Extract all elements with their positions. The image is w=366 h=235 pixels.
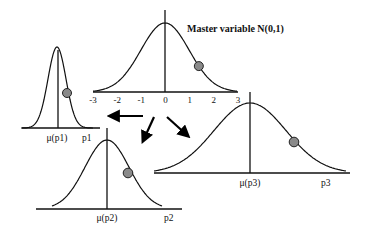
arrow-to-p2 [143, 117, 154, 141]
master-title: Master variable N(0,1) [187, 23, 284, 35]
diagram-canvas: -3-2-10123 Master variable N(0,1) μ(p1) … [0, 0, 366, 235]
master-sample-dot [194, 62, 203, 71]
p2-axis-label: p2 [164, 213, 174, 223]
master-tick-label: 2 [212, 95, 217, 105]
p2-mean-label: μ(p2) [97, 213, 118, 224]
master-plot: -3-2-10123 Master variable N(0,1) [89, 10, 283, 105]
p3-axis-label: p3 [321, 178, 331, 188]
arrow-to-p3 [167, 117, 188, 136]
master-tick-label: 1 [187, 95, 192, 105]
master-tick-label: -3 [89, 95, 97, 105]
p1-axis-label: p1 [82, 133, 92, 143]
master-tick-label: -2 [113, 95, 121, 105]
p1-sample-dot [63, 89, 72, 98]
panel-p3: μ(p3) p3 [154, 92, 350, 189]
p1-mean-label: μ(p1) [47, 133, 68, 144]
master-tick-label: 0 [163, 95, 168, 105]
master-tick-label: -1 [138, 95, 146, 105]
p2-sample-dot [123, 168, 133, 178]
p1-curve [21, 47, 93, 128]
master-tick-label: 3 [236, 95, 241, 105]
p3-mean-label: μ(p3) [240, 178, 261, 189]
p3-sample-dot [289, 137, 299, 147]
panel-p1: μ(p1) p1 [21, 47, 100, 144]
